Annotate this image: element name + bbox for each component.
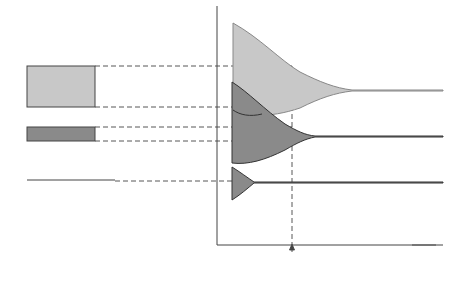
band-diagram: [0, 0, 470, 305]
lower-energy-band-box: [27, 127, 95, 141]
discrete-band-shape: [232, 167, 443, 200]
upper-energy-band-box: [27, 66, 95, 107]
upper-band-shape: [233, 23, 443, 115]
